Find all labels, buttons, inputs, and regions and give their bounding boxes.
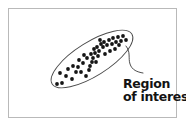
scatter-point (116, 35, 120, 39)
scatter-point (74, 70, 78, 74)
annotation-label-line-2: of interest (123, 91, 186, 104)
scatter-point (101, 45, 105, 49)
scatter-point (84, 74, 88, 78)
scatter-point (76, 65, 80, 69)
scatter-point (77, 58, 81, 62)
scatter-point (119, 39, 123, 43)
scatter-point (55, 82, 59, 86)
scatter-point (91, 56, 95, 60)
scatter-point (58, 71, 62, 75)
scatter-point (117, 43, 121, 47)
scatter-point (97, 49, 101, 53)
scatter-point (87, 68, 91, 72)
scatter-point (85, 56, 89, 60)
scatter-point (102, 40, 106, 44)
scatter-point (82, 53, 86, 57)
scatter-point (94, 60, 98, 64)
scatter-point (79, 70, 83, 74)
scatter-point (110, 42, 114, 46)
scatter-point (81, 61, 85, 65)
scatter-point-group (55, 34, 128, 86)
scatter-point (121, 34, 125, 38)
scatter-point (96, 54, 100, 58)
scatter-point (60, 81, 64, 85)
scatter-point (113, 47, 117, 51)
scatter-point (70, 77, 74, 81)
scatter-point (71, 64, 75, 68)
scatter-point (95, 45, 99, 49)
scatter-point (105, 43, 109, 47)
scatter-point (114, 40, 118, 44)
scatter-point (88, 64, 92, 68)
scatter-point (90, 60, 94, 64)
scatter-plot-canvas (0, 0, 186, 127)
scatter-point (89, 52, 93, 56)
scatter-point (107, 38, 111, 42)
scatter-point (66, 67, 70, 71)
callout-leader-line (126, 46, 143, 73)
scatter-point (124, 38, 128, 42)
scatter-point (93, 51, 97, 55)
scatter-point (103, 52, 107, 56)
scatter-point (108, 49, 112, 53)
scatter-point (98, 38, 102, 42)
figure-root: Region of interest (0, 0, 186, 127)
scatter-point (111, 36, 115, 40)
scatter-point (64, 74, 68, 78)
